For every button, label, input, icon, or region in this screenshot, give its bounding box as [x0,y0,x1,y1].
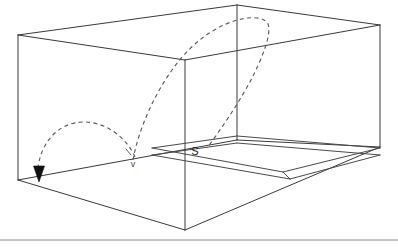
bounce-tick-marks [126,149,131,155]
direction-arrow [34,166,45,182]
box-edge-top-back-right-to-front-right [237,5,380,25]
box-edge-floor-back-left [18,140,237,180]
box-trajectory-diagram: S v [0,0,398,247]
slab-side-cap-top [152,148,283,172]
label-bounce-point: v [131,159,136,169]
arrow-head-icon [34,166,45,182]
box-edge-floor-front-left [18,180,185,230]
figure-root: S v [0,0,398,247]
trajectory-group [38,18,269,167]
slab-lower-edge [152,155,290,179]
box-wireframe [18,5,380,230]
floor-strip [152,136,380,179]
label-source-point: S [191,145,198,157]
trajectory-short-arc [38,122,135,167]
tick-mark-bounce [126,149,131,155]
slab-top-edge-right [237,136,380,148]
box-edge-top-back-left-to-back-right [18,5,237,35]
trajectory-long-arc [133,18,269,160]
box-edge-top-front-center-to-back-left [18,35,185,60]
